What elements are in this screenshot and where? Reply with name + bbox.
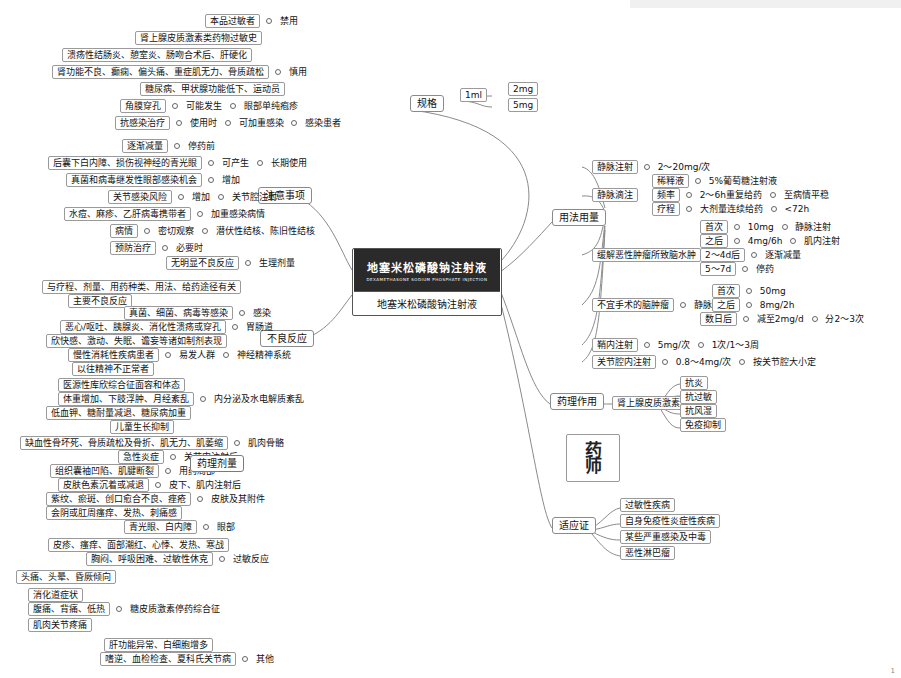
adverse-endocrine-row-2: 低血钾、糖耐量减退、糖尿病加重	[46, 408, 191, 419]
bullet-dot	[242, 656, 248, 662]
bullet-dot	[734, 238, 740, 244]
pharmacology-item-3: 免疫抑制	[680, 420, 726, 431]
bullet-dot	[695, 178, 701, 184]
adverse-neuro-row-0: 慢性消耗性疾病患者 易发人群 神经精神系统	[68, 350, 293, 361]
branch-indications[interactable]: 适应证	[552, 520, 596, 532]
bullet-dot	[257, 160, 263, 166]
adverse-pharma-label: 药理剂量	[190, 458, 244, 470]
bullet-dot	[234, 440, 240, 446]
bullet-dot	[155, 482, 161, 488]
avatar-glyph: 药师	[585, 442, 602, 474]
adverse-other-row-0: 肝功能异常、白细胞增多	[104, 640, 213, 651]
precaution-latent-row-0: 水痘、麻疹、乙肝病毒携带者 加重感染病情	[64, 209, 267, 220]
precaution-joint-row: 关节感染风险 增加 关节腔注射	[108, 192, 279, 203]
adverse-allergy-row-1: 胸闷、呼吸困难、过敏性休克 过敏反应	[86, 554, 271, 565]
bullet-dot	[812, 316, 818, 322]
bullet-dot	[176, 120, 182, 126]
indication-item-2: 某些严重感染及中毒	[620, 532, 711, 543]
adverse-endocrine-row-3: 儿童生长抑制	[110, 422, 174, 433]
bullet-dot	[225, 120, 231, 126]
pharmacology-item-1: 抗过敏	[680, 392, 717, 403]
bullet-dot	[662, 359, 668, 365]
bullet-dot	[172, 103, 178, 109]
bullet-dot	[790, 238, 796, 244]
bullet-dot	[686, 206, 692, 212]
bullet-dot	[644, 342, 650, 348]
bullet-dot	[162, 245, 168, 251]
precaution-caution-item-3: 糖尿病、甲状腺功能低下、运动员	[140, 84, 285, 95]
dosage-tumor-first: 首次 50mg	[712, 286, 788, 297]
adverse-skin-row-1: 紫纹、瘀斑、创口愈合不良、痤疮 皮肤及其附件	[46, 494, 267, 505]
indication-item-1: 自身免疫性炎症性疾病	[620, 516, 720, 527]
bullet-dot	[266, 18, 272, 24]
bullet-dot	[742, 266, 748, 272]
bullet-dot	[746, 288, 752, 294]
adverse-withdraw-row-1: 消化道症状	[28, 590, 83, 601]
bullet-dot	[751, 252, 757, 258]
precaution-latent-row-2: 预防治疗 必要时	[110, 243, 205, 254]
bullet-dot	[698, 342, 704, 348]
bullet-dot	[178, 194, 184, 200]
adverse-allergy-row-0: 皮疹、瘙痒、面部潮红、心悸、发热、寒战	[48, 540, 229, 551]
pharmacology-item-2: 抗风湿	[680, 406, 717, 417]
precaution-longterm-row-2: 真菌和病毒继发性眼部感染机会 增加	[66, 175, 242, 186]
dosage-edema-taper: 2～4d后 逐渐减量	[700, 250, 803, 261]
adverse-withdraw-row-2: 腹痛、背痛、低热 糖皮质激素停药综合征	[28, 604, 222, 615]
dosage-drip-frequency: 频率 2～6h重复给药 至病情平稳	[652, 190, 831, 201]
spec-2mg: 2mg	[508, 84, 538, 95]
bullet-dot	[165, 468, 171, 474]
branch-pharmacology[interactable]: 药理作用	[550, 396, 604, 408]
adverse-endocrine-row-1: 体重增加、下肢浮肿、月经紊乱 内分泌及水电解质紊乱	[58, 394, 306, 405]
pharmacology-item-0: 抗炎	[680, 378, 708, 389]
bullet-dot	[197, 496, 203, 502]
bullet-dot	[223, 352, 229, 358]
bullet-dot	[275, 69, 281, 75]
adverse-infection-row-2: 真菌、细菌、病毒等感染 感染	[124, 308, 273, 319]
dosage-tumor-row: 不宜手术的脑肿瘤 静脉注射	[592, 300, 732, 311]
product-name-cn: 地塞米松磷酸钠注射液	[367, 259, 487, 275]
adverse-withdraw-row-0: 头痛、头晕、昏厥倾向	[16, 572, 116, 583]
bullet-dot	[170, 454, 176, 460]
bullet-dot	[197, 211, 203, 217]
dosage-drip-course: 疗程 大剂量连续给药 <72h	[652, 204, 811, 215]
spec-5mg: 5mg	[508, 100, 538, 111]
adverse-skin-row-2: 会阴或肛周瘙痒、发热、刺痛感	[46, 508, 182, 519]
top-band	[630, 0, 901, 8]
bullet-dot	[743, 316, 749, 322]
dosage-tumor-after: 之后 8mg/2h	[712, 300, 796, 311]
adverse-neuro-row-1: 以往精神不正常者	[72, 364, 154, 375]
branch-adverse[interactable]: 不良反应	[260, 333, 314, 345]
precaution-longterm-row-1: 后囊下白内障、损伤视神经的青光眼 可产生 长期使用	[48, 158, 309, 169]
branch-dosage[interactable]: 用法用量	[552, 212, 606, 224]
precaution-caution-item-0: 肾上腺皮质激素类药物过敏史	[135, 33, 262, 44]
precaution-latent-row-1: 病情 密切观察 潜伏性结核、陈旧性结核	[110, 226, 317, 237]
bullet-dot	[245, 260, 251, 266]
precaution-cornea-row: 角膜穿孔 可能发生 眼部单纯疱疹	[120, 101, 300, 112]
bullet-dot	[239, 310, 245, 316]
dosage-edema-first: 首次 10mg 静脉注射	[700, 222, 833, 233]
dosage-edema-stop: 5～7d 停药	[700, 264, 776, 275]
bullet-dot	[734, 224, 740, 230]
bullet-dot	[680, 302, 686, 308]
bullet-dot	[165, 352, 171, 358]
precaution-forbidden-row: 本品过敏者 禁用	[205, 16, 300, 27]
adverse-withdraw-row-3: 肌肉关节疼痛	[28, 620, 92, 631]
center-caption: 地塞米松磷酸钠注射液	[377, 292, 477, 311]
adverse-endocrine-row-0: 医源性库欣综合征面容和体态	[58, 380, 185, 391]
precaution-longterm-row-0: 逐渐减量 停药前	[122, 141, 217, 152]
indication-item-3: 恶性淋巴瘤	[620, 548, 675, 559]
bullet-dot	[200, 396, 206, 402]
dosage-drip-diluent: 稀释液 5%葡萄糖注射液	[652, 176, 779, 187]
bullet-dot	[291, 120, 297, 126]
branch-spec[interactable]: 规格	[410, 98, 444, 110]
indication-item-0: 过敏性疾病	[620, 500, 675, 511]
precaution-infection-row: 抗感染治疗 使用时 可加重感染 感染患者	[115, 118, 343, 129]
bullet-dot	[644, 164, 650, 170]
product-name-en: DEXAMETHASONE SODIUM PHOSPHATE INJECTION	[367, 277, 488, 282]
center-node: 地塞米松磷酸钠注射液 DEXAMETHASONE SODIUM PHOSPHAT…	[352, 248, 502, 316]
bullet-dot	[202, 228, 208, 234]
bullet-dot	[746, 302, 752, 308]
adverse-physio-row: 无明显不良反应 生理剂量	[166, 258, 297, 269]
adverse-infection-row-1: 主要不良反应	[68, 296, 132, 307]
adverse-other-row-1: 嗜逆、血检检查、夏科氏关节病 其他	[100, 654, 276, 665]
